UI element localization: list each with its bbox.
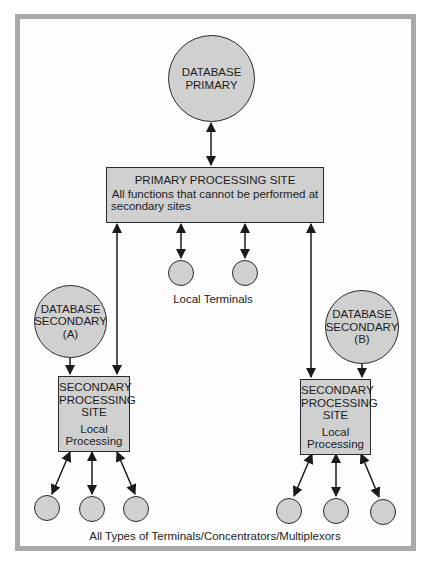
database-secondary-a-line2: SECONDARY: [34, 315, 107, 328]
primary-site-desc-line2: secondary sites: [107, 200, 323, 213]
secondary-site-a-line2: PROCESSING: [59, 394, 129, 407]
primary-processing-site: PRIMARY PROCESSING SITE All functions th…: [106, 167, 324, 223]
database-primary-node: DATABASE PRIMARY: [168, 35, 255, 122]
secondary-site-a-line1: SECONDARY: [59, 381, 129, 394]
database-secondary-a-line3: (A): [34, 328, 107, 341]
database-secondary-a-line1: DATABASE: [34, 303, 107, 316]
database-secondary-b-node: DATABASE SECONDARY (B): [325, 290, 399, 364]
terminal-a2: [79, 496, 105, 522]
terminal-a1: [34, 495, 60, 521]
secondary-site-b-sub1: Local: [301, 426, 370, 439]
secondary-site-b-sub2: Processing: [301, 438, 370, 451]
terminal-b1: [276, 498, 302, 524]
secondary-site-a-sub1: Local: [59, 423, 129, 436]
primary-site-desc-line1: All functions that cannot be performed a…: [107, 188, 323, 201]
secondary-processing-site-a: SECONDARY PROCESSING SITE Local Processi…: [58, 376, 130, 452]
secondary-site-a-sub2: Processing: [59, 435, 129, 448]
database-secondary-b-line3: (B): [326, 333, 399, 346]
secondary-site-b-line3: SITE: [301, 409, 370, 422]
database-primary-line1: DATABASE: [182, 66, 242, 79]
secondary-site-a-line3: SITE: [59, 406, 129, 419]
local-terminal-2: [232, 260, 258, 286]
database-secondary-b-line1: DATABASE: [326, 308, 399, 321]
terminal-b3: [370, 499, 396, 525]
bottom-terminals-label: All Types of Terminals/Concentrators/Mul…: [60, 530, 370, 543]
local-terminals-label: Local Terminals: [163, 293, 263, 306]
terminal-b2: [323, 498, 349, 524]
database-primary-line2: PRIMARY: [182, 79, 242, 92]
secondary-site-b-line2: PROCESSING: [301, 397, 370, 410]
local-terminal-1: [168, 260, 194, 286]
database-secondary-b-line2: SECONDARY: [326, 321, 399, 334]
secondary-processing-site-b: SECONDARY PROCESSING SITE Local Processi…: [300, 379, 371, 455]
terminal-a3: [123, 496, 149, 522]
secondary-site-b-line1: SECONDARY: [301, 384, 370, 397]
primary-site-title: PRIMARY PROCESSING SITE: [107, 174, 323, 187]
database-secondary-a-node: DATABASE SECONDARY (A): [34, 285, 107, 358]
